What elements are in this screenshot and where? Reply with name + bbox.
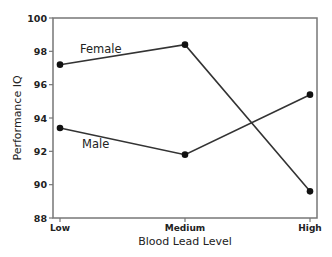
data-point-female-medium	[182, 41, 189, 48]
line-chart: 889092949698100 LowMediumHigh Blood Lead…	[0, 0, 332, 257]
y-tick-label: 92	[34, 146, 47, 157]
x-axis-title: Blood Lead Level	[138, 235, 232, 248]
x-tick-label: Medium	[165, 223, 205, 233]
y-tick-label: 98	[34, 46, 48, 57]
series-layer	[57, 41, 314, 194]
y-axis: 889092949698100	[27, 13, 53, 224]
x-tick-label: Low	[50, 223, 70, 233]
y-tick-label: 96	[34, 79, 48, 90]
y-axis-title: Performance IQ	[11, 75, 24, 160]
x-tick-label: High	[298, 223, 321, 233]
series-label-female: Female	[80, 42, 122, 56]
x-axis: LowMediumHigh	[50, 218, 322, 233]
series-label-male: Male	[82, 137, 109, 151]
series-line-female	[60, 45, 310, 192]
y-tick-label: 90	[34, 179, 48, 190]
y-tick-label: 88	[34, 213, 48, 224]
y-tick-label: 94	[34, 113, 48, 124]
data-point-male-high	[307, 91, 314, 98]
data-point-male-medium	[182, 151, 189, 158]
data-point-female-high	[307, 188, 314, 195]
y-tick-label: 100	[27, 13, 47, 24]
data-point-female-low	[57, 61, 64, 68]
data-point-male-low	[57, 125, 64, 132]
